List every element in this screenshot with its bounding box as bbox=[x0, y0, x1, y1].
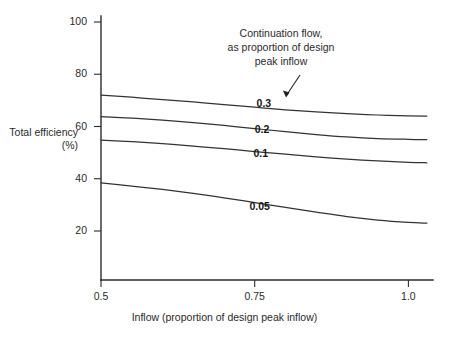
y-axis-tick-label: 40 bbox=[53, 173, 87, 184]
annotation-line-3: peak inflow bbox=[196, 54, 366, 68]
series-label: 0.3 bbox=[244, 98, 284, 109]
annotation-text: Continuation flow, as proportion of desi… bbox=[196, 26, 366, 68]
y-axis-label-line-1: Total bbox=[9, 126, 31, 138]
annotation-arrow bbox=[283, 75, 300, 98]
chart-figure: Total efficiency (%) Inflow (proportion … bbox=[0, 0, 449, 337]
series-label: 0.1 bbox=[241, 148, 281, 159]
y-axis-tick-label: 80 bbox=[53, 68, 87, 79]
series-label: 0.2 bbox=[242, 124, 282, 135]
y-axis-tick-label: 100 bbox=[53, 16, 87, 27]
y-axis-tick-label: 60 bbox=[53, 121, 87, 132]
x-axis-label: Inflow (proportion of design peak inflow… bbox=[0, 311, 449, 323]
annotation-line-1: Continuation flow, bbox=[196, 26, 366, 40]
series-label: 0.05 bbox=[240, 201, 280, 212]
annotation-line-2: as proportion of design bbox=[196, 40, 366, 54]
x-axis-tick-label: 1.0 bbox=[383, 291, 433, 302]
x-axis-tick-label: 0.5 bbox=[76, 291, 126, 302]
y-axis-label-line-3: (%) bbox=[62, 139, 78, 151]
x-axis-tick-label: 0.75 bbox=[230, 291, 280, 302]
y-axis-tick-label: 20 bbox=[53, 225, 87, 236]
